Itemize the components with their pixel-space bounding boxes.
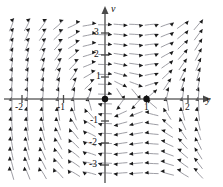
field-arrowhead (129, 162, 133, 166)
field-arrowhead (154, 82, 158, 86)
field-arrowhead (160, 169, 164, 173)
field-arrowhead (139, 54, 143, 58)
field-arrowhead (108, 62, 112, 66)
field-arrowhead (154, 44, 158, 47)
y-tick-label-1: 1 (96, 72, 101, 82)
field-arrowhead (124, 33, 128, 37)
field-arrowhead (108, 42, 112, 46)
field-arrowhead (145, 141, 149, 145)
field-arrowhead (139, 44, 143, 48)
x-tick-label-2: 2 (185, 103, 190, 113)
field-arrowhead (165, 87, 168, 91)
field-arrowhead (154, 73, 158, 76)
field-arrowhead (114, 133, 118, 137)
field-arrowhead (108, 82, 112, 86)
field-arrowhead (198, 39, 202, 43)
equilibrium-point (102, 96, 108, 102)
field-arrowhead (129, 132, 133, 136)
field-arrowhead (39, 137, 43, 141)
field-arrowhead (124, 23, 128, 27)
field-arrowhead (92, 21, 96, 25)
field-arrowhead (8, 147, 12, 151)
field-arrowhead (39, 127, 43, 131)
field-arrowhead (114, 114, 118, 118)
field-arrowhead (169, 60, 173, 64)
field-arrowhead (185, 21, 189, 25)
field-arrowhead (38, 147, 42, 151)
field-arrowhead (154, 63, 158, 66)
field-arrowhead (145, 120, 149, 124)
field-arrowhead (139, 74, 143, 78)
y-axis-label: y (206, 95, 210, 105)
field-arrowhead (138, 84, 142, 88)
field-arrowhead (98, 173, 102, 177)
y-tick-label--2: -2 (89, 138, 97, 148)
field-arrowhead (116, 106, 120, 110)
field-arrowhead (139, 64, 143, 68)
field-arrowhead (184, 30, 188, 34)
field-arrowhead (92, 41, 96, 45)
field-arrowhead (98, 133, 102, 137)
field-arrowhead (8, 117, 12, 121)
field-arrowhead (69, 118, 73, 122)
field-arrowhead (84, 120, 88, 124)
field-arrowhead (154, 24, 158, 28)
field-arrowhead (8, 166, 12, 170)
field-arrowhead (8, 157, 12, 161)
field-arrowhead (181, 77, 185, 81)
field-arrowhead (178, 138, 182, 142)
field-arrowhead (114, 162, 118, 166)
field-arrowhead (108, 91, 112, 95)
field-arrowhead (183, 59, 187, 63)
field-arrowhead (197, 67, 200, 71)
field-arrowhead (177, 149, 181, 152)
field-arrowhead (23, 137, 27, 141)
x-tick-label-1: 1 (144, 103, 149, 113)
field-arrowhead (194, 158, 198, 162)
field-arrowhead (194, 168, 198, 172)
field-arrowhead (129, 172, 133, 176)
y-tick-label-3: 3 (94, 28, 99, 38)
x-tick-label--1: -1 (57, 103, 65, 113)
field-arrowhead (170, 32, 174, 36)
field-arrowhead (154, 34, 158, 37)
v-axis-arrowhead (102, 6, 109, 14)
field-arrowhead (114, 123, 118, 127)
field-arrowhead (131, 105, 135, 109)
field-arrowhead (23, 157, 27, 161)
field-arrowhead (114, 143, 118, 147)
field-arrowhead (108, 72, 112, 76)
x-tick-label--2: -2 (15, 103, 23, 113)
field-arrowhead (129, 142, 133, 146)
y-tick-label-2: 2 (94, 50, 99, 60)
v-axis-label: v (111, 4, 115, 14)
field-arrowhead (123, 43, 127, 47)
field-arrowhead (23, 167, 27, 171)
direction-field-plot (0, 0, 223, 187)
y-tick-label--3: -3 (89, 160, 97, 170)
field-arrowhead (98, 153, 102, 157)
direction-field-figure: y v -2 -1 1 2 3 2 1 -1 -2 -3 (0, 0, 223, 187)
field-arrowhead (195, 147, 199, 151)
field-arrowhead (179, 107, 183, 111)
field-arrowhead (184, 40, 188, 44)
field-arrowhead (54, 117, 58, 121)
field-arrowhead (179, 128, 183, 132)
field-arrowhead (123, 53, 127, 57)
y-tick-label--1: -1 (90, 116, 98, 126)
field-arrowhead (92, 60, 96, 64)
field-arrowhead (195, 107, 199, 111)
field-arrowhead (70, 107, 74, 111)
field-arrowhead (161, 149, 165, 153)
field-arrowhead (123, 73, 127, 77)
field-arrowhead (161, 159, 165, 163)
field-arrowhead (154, 54, 158, 57)
field-arrowhead (114, 153, 118, 157)
field-arrowhead (123, 63, 127, 67)
field-arrowhead (23, 147, 27, 151)
field-arrowhead (139, 24, 143, 28)
